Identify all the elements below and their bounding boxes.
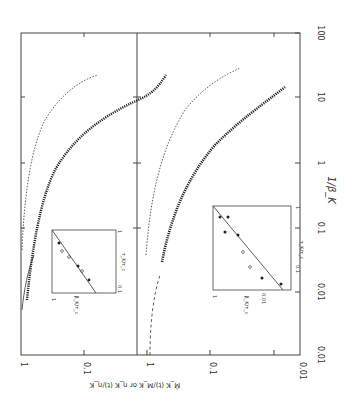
lower-fit-dashed-line [150, 275, 160, 355]
upper-inset-x-label: τ_K/τ_c [120, 253, 127, 272]
tick-0-01: 0.01 [316, 283, 325, 301]
y-tick-labels: 1 0.1 1 0.1 0.01 [19, 362, 307, 380]
upper-inset-y-label: β_K/τ_c [73, 296, 80, 315]
lower-inset: τ_K/τ_c β_K/τ_c 1 0.1 0.01 1 [212, 206, 305, 315]
rotated-figure: 100 10 1 0.1 0.01 0.01 1/β_K 1 0.1 1 0.1… [0, 0, 344, 400]
x-axis-ticks [21, 33, 300, 355]
upper-inset-tick-0-1: 0.1 [117, 285, 123, 293]
upper-inset-ytick-1: 1 [51, 298, 57, 301]
lower-inset-ytick-1: 1 [212, 295, 218, 298]
upper-open-series [22, 75, 98, 250]
tick-100: 100 [316, 25, 325, 40]
lower-inset-tick-1: 1 [295, 206, 301, 209]
lower-inset-tick-0-01: 0.01 [261, 293, 267, 304]
x-tick-labels: 100 10 1 0.1 0.01 0.01 [316, 25, 325, 364]
upper-inset-tick-1: 1 [117, 230, 123, 233]
tick-0-01b: 0.01 [316, 346, 325, 364]
tick-1: 1 [316, 160, 325, 165]
x-axis-label: 1/β_K [325, 176, 337, 205]
tick-0-1: 0.1 [316, 222, 325, 235]
upper-fit-line [22, 255, 34, 310]
lower-inset-y-label: β_K/τ_c [243, 296, 250, 315]
lower-inset-tick-0-1: 0.1 [295, 265, 301, 273]
ytick-0-1-lower: 0.1 [208, 362, 217, 375]
ytick-1-upper: 1 [19, 362, 28, 367]
tick-10: 10 [316, 92, 325, 102]
upper-inset: τ_K/τ_c β_K/τ_c 1 0.1 1 [51, 230, 127, 315]
plot-frame [21, 33, 300, 355]
lower-inset-x-label: τ_K/τ_c [298, 241, 305, 260]
ytick-0-01: 0.01 [298, 362, 307, 380]
y-axis-label: M̃_K (t)/M_K or η_K (t)/η_K [89, 381, 180, 390]
ytick-1-lower: 1 [145, 362, 154, 367]
ytick-0-1-upper: 0.1 [82, 362, 91, 375]
